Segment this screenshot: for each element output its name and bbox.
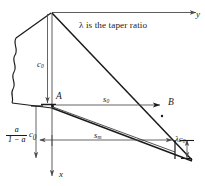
trailing-edge-swept [52, 108, 192, 161]
sm-label: sm [94, 131, 101, 141]
s0-label: s0 [103, 95, 109, 105]
fraction-multiplier: c0 [29, 129, 36, 143]
tip-chord-symbol: λc [175, 134, 183, 144]
point-b-marker [161, 115, 163, 117]
leading-edge-left [16, 13, 51, 38]
fraction: a 1 − a [6, 126, 27, 145]
caption-text: λ is the taper ratio [79, 21, 147, 30]
fraction-denominator: 1 − a [6, 136, 27, 145]
leading-edge-swept [52, 13, 192, 160]
y-axis-label: y [196, 10, 200, 19]
s0-subscript: 0 [106, 98, 109, 104]
x-axis-label: x [59, 170, 63, 179]
taper-ratio-figure: λ is the taper ratio y x A B c0 s0 sm λc… [0, 0, 205, 186]
sm-subscript: m [97, 134, 101, 140]
fraction-multiplier-subscript: 0 [33, 133, 37, 141]
root-chord-label: c0 [37, 60, 44, 70]
quarter-chord-line [53, 107, 175, 152]
root-chord-subscript: 0 [41, 63, 44, 69]
tip-chord-label: λc0 [175, 135, 185, 145]
fraction-numerator: a [13, 126, 21, 135]
tip-chord-subscript: 0 [183, 138, 186, 144]
point-b-label: B [168, 98, 174, 108]
point-a-marker [51, 105, 54, 108]
offset-fraction-label: a 1 − a c0 [6, 126, 36, 145]
point-a-label: A [56, 92, 62, 102]
break-line-wavy [12, 38, 17, 103]
